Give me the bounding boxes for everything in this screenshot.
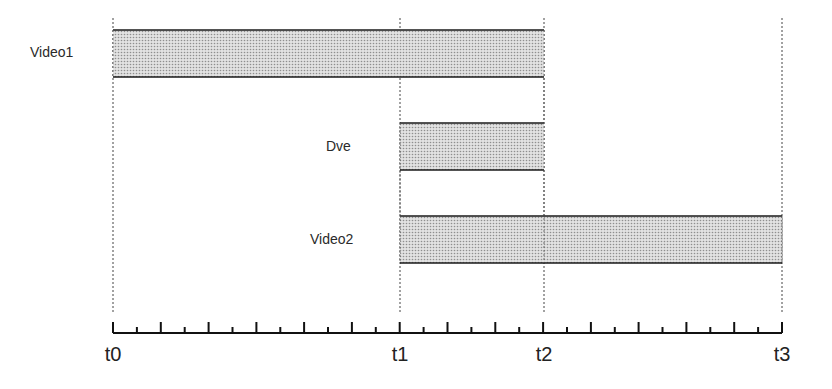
timeline-canvas bbox=[0, 0, 832, 389]
time-label-t3: t3 bbox=[774, 343, 791, 366]
time-label-t1: t1 bbox=[392, 343, 409, 366]
track-label-video1: Video1 bbox=[30, 44, 73, 60]
bar-video2 bbox=[400, 216, 782, 263]
time-label-t0: t0 bbox=[105, 343, 122, 366]
timeline-diagram: Video1 Dve Video2 t0 t1 t2 t3 bbox=[0, 0, 832, 389]
time-label-t2: t2 bbox=[536, 343, 553, 366]
bar-video1 bbox=[113, 30, 544, 77]
time-axis bbox=[113, 322, 782, 333]
bar-dve bbox=[400, 123, 544, 170]
track-label-video2: Video2 bbox=[310, 231, 353, 247]
track-label-dve: Dve bbox=[326, 138, 351, 154]
track-bars bbox=[113, 30, 782, 263]
